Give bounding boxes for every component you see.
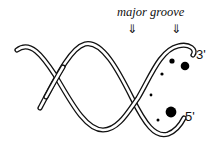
dna-helix-diagram: major groove ⇓ ⇓ 3' 5' [0,0,221,145]
major-groove-label: major groove [117,5,185,19]
three-prime-label: 3' [196,47,206,62]
groove-arrow-left-icon: ⇓ [127,22,137,36]
five-prime-label: 5' [185,109,195,124]
groove-arrow-right-icon: ⇓ [171,22,181,36]
groove-dot [150,94,153,97]
groove-dot [157,119,160,122]
groove-dot [160,72,163,75]
groove-dot [181,62,190,71]
groove-dot [169,58,174,63]
groove-dot [166,107,177,118]
